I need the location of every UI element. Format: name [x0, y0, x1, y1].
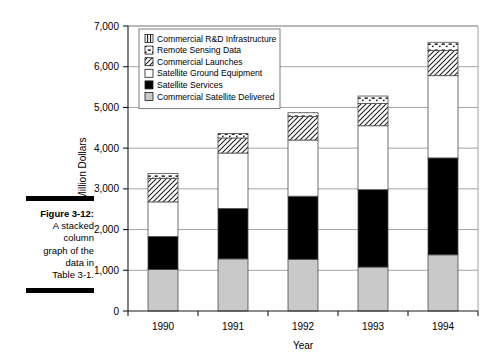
x-axis-tick-label: 1991 [222, 321, 245, 332]
y-axis-tick-label: 5,000 [94, 102, 119, 113]
x-axis-tick-label: 1994 [432, 321, 455, 332]
bar-segment [288, 113, 318, 117]
y-axis-title: Million Dollars [77, 137, 88, 199]
bar-segment [288, 196, 318, 259]
bar-segment [358, 103, 388, 125]
bar-segment [428, 42, 458, 50]
bar-segment [288, 140, 318, 196]
bar-segment [218, 208, 248, 258]
bar-segment [428, 76, 458, 158]
legend-swatch [145, 69, 153, 77]
y-axis: 01,0002,0003,0004,0005,0006,0007,000Mill… [77, 21, 128, 317]
legend-swatch [145, 93, 153, 101]
stacked-column-chart: 01,0002,0003,0004,0005,0006,0007,000Mill… [0, 0, 498, 361]
bar-segment [358, 126, 388, 190]
y-axis-tick-label: 3,000 [94, 183, 119, 194]
chart-legend: Commercial R&D InfrastructureRemote Sens… [139, 29, 280, 109]
bar-segment [288, 116, 318, 140]
y-axis-tick-label: 2,000 [94, 224, 119, 235]
legend-label: Satellite Services [157, 80, 223, 90]
bar-segment [218, 153, 248, 208]
legend-label: Commercial R&D Infrastructure [157, 34, 277, 44]
bar-segment [148, 173, 178, 178]
legend-label: Satellite Ground Equipment [157, 68, 263, 78]
bar-segment [358, 96, 388, 103]
legend-label: Commercial Satellite Delivered [157, 92, 275, 102]
x-axis-tick-label: 1990 [152, 321, 175, 332]
bar-segment [428, 255, 458, 311]
legend-label: Commercial Launches [157, 57, 243, 67]
y-axis-tick-label: 1,000 [94, 265, 119, 276]
legend-label: Remote Sensing Data [157, 45, 241, 55]
bar-segment [148, 202, 178, 237]
y-axis-tick-label: 0 [113, 306, 119, 317]
bar-segment [218, 133, 248, 137]
legend-swatch [145, 58, 153, 66]
bar-segment [148, 178, 178, 202]
x-axis-tick-label: 1992 [292, 321, 315, 332]
x-axis: 19901991199219931994Year [128, 311, 478, 351]
y-axis-tick-label: 4,000 [94, 143, 119, 154]
bar-segment [428, 158, 458, 255]
x-axis-title: Year [293, 340, 314, 351]
legend-swatch [145, 35, 153, 43]
y-axis-tick-label: 7,000 [94, 21, 119, 32]
bar-segment [218, 259, 248, 311]
x-axis-tick-label: 1993 [362, 321, 385, 332]
bar-segment [218, 138, 248, 153]
bar-segment [358, 190, 388, 267]
legend-swatch [145, 46, 153, 54]
legend-swatch [145, 81, 153, 89]
figure-page: Figure 3-12: A stacked column graph of t… [0, 0, 498, 361]
bar-segment [148, 236, 178, 269]
bar-segment [148, 269, 178, 311]
bar-segment [428, 50, 458, 75]
y-axis-tick-label: 6,000 [94, 61, 119, 72]
bar-segment [288, 259, 318, 311]
bar-segment [358, 267, 388, 311]
